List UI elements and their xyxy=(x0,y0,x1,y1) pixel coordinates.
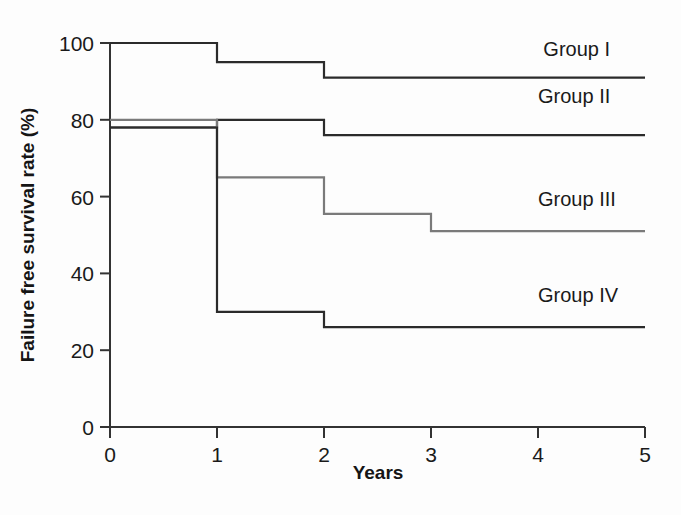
x-axis-ticks xyxy=(110,427,645,438)
x-tick-label-1: 1 xyxy=(211,443,223,466)
y-tick-label-100: 100 xyxy=(59,32,94,55)
y-tick-label-80: 80 xyxy=(71,109,94,132)
y-axis-tick-labels: 020406080100 xyxy=(59,32,94,439)
x-tick-label-2: 2 xyxy=(318,443,330,466)
y-tick-label-40: 40 xyxy=(71,262,94,285)
y-tick-label-0: 0 xyxy=(82,416,94,439)
x-tick-label-4: 4 xyxy=(532,443,544,466)
series-label-3: Group III xyxy=(538,188,616,210)
chart-page: 020406080100 012345 Group IGroup IIGroup… xyxy=(0,0,681,515)
x-tick-label-0: 0 xyxy=(104,443,116,466)
x-tick-label-5: 5 xyxy=(639,443,651,466)
series-label-4: Group IV xyxy=(538,284,619,306)
y-tick-label-60: 60 xyxy=(71,186,94,209)
failure-free-survival-chart: 020406080100 012345 Group IGroup IIGroup… xyxy=(0,0,681,515)
series-label-1: Group I xyxy=(543,38,610,60)
y-axis-title: Failure free survival rate (%) xyxy=(17,108,38,363)
series-curve-3 xyxy=(110,120,645,231)
series-label-2: Group II xyxy=(538,85,610,107)
y-axis-ticks xyxy=(100,43,110,427)
x-axis-title: Years xyxy=(353,462,404,483)
x-tick-label-3: 3 xyxy=(425,443,437,466)
y-tick-label-20: 20 xyxy=(71,339,94,362)
